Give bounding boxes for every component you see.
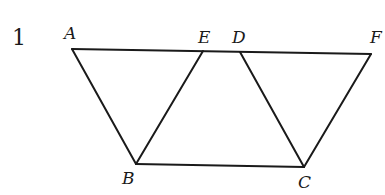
segment-dc: [240, 52, 304, 167]
point-label-c: C: [298, 174, 311, 191]
segment-ab: [72, 49, 136, 164]
problem-number: 1: [12, 27, 26, 49]
segment-bc: [136, 164, 304, 167]
point-label-d: D: [232, 29, 246, 46]
point-label-a: A: [64, 25, 76, 42]
point-label-b: B: [122, 170, 135, 187]
segment-be: [136, 51, 203, 164]
figure-lines: [0, 0, 385, 195]
point-label-e: E: [198, 29, 210, 46]
point-label-f: F: [370, 29, 382, 46]
segment-af: [72, 49, 371, 54]
segment-cf: [304, 54, 371, 167]
